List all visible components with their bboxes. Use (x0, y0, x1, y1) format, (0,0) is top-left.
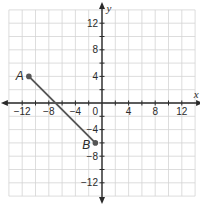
y-tick-label: −12 (81, 177, 98, 188)
point-label-B: B (82, 138, 90, 152)
x-tick-label: 12 (176, 106, 188, 117)
y-tick-label: 4 (92, 71, 98, 82)
y-tick-label: 12 (87, 18, 99, 29)
y-tick-label: 8 (92, 44, 98, 55)
x-tick-label: −4 (70, 106, 82, 117)
coordinate-plane: xy −12−8−448121284−4−8−120 AB (0, 0, 200, 206)
x-tick-label: 8 (152, 106, 158, 117)
x-tick-label: −12 (14, 106, 31, 117)
y-axis-arrow-up-icon (99, 2, 105, 9)
x-tick-label: 4 (126, 106, 132, 117)
axes: xy (1, 2, 200, 204)
point-B (93, 140, 99, 146)
y-tick-label: −8 (87, 151, 99, 162)
y-tick-label: −4 (87, 124, 99, 135)
point-A (26, 74, 32, 80)
x-axis-label: x (193, 88, 199, 100)
x-axis-arrow-right-icon (196, 100, 200, 106)
x-tick-label: −8 (43, 106, 55, 117)
x-axis-arrow-left-icon (1, 100, 8, 106)
y-axis-label: y (106, 2, 112, 14)
y-axis-arrow-down-icon (99, 197, 105, 204)
origin-label: 0 (92, 106, 98, 117)
point-label-A: A (15, 69, 24, 83)
